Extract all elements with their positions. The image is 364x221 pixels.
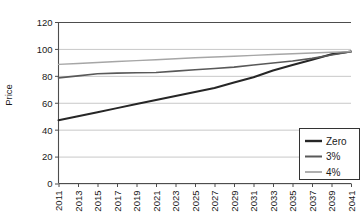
legend-label: 4%: [326, 167, 341, 178]
y-tick-label: 20: [42, 151, 53, 162]
chart-legend: Zero3%4%: [300, 129, 360, 180]
chart-canvas: 020406080100120 201120132015201720192021…: [0, 0, 364, 221]
x-tick-label: 2031: [248, 191, 259, 212]
x-tick-label: 2021: [151, 191, 162, 212]
x-tick-label: 2035: [287, 191, 298, 212]
x-tick-label: 2017: [112, 191, 123, 212]
x-tick-label: 2019: [131, 191, 142, 212]
y-tick-label: 120: [37, 17, 53, 28]
x-tick-label: 2033: [268, 191, 279, 212]
x-tick-label: 2029: [229, 191, 240, 212]
y-tick-label: 100: [37, 44, 53, 55]
y-axis-title: Price: [3, 84, 14, 106]
x-tick-label: 2015: [92, 191, 103, 212]
y-tick-label: 80: [42, 71, 53, 82]
legend-label: 3%: [326, 151, 341, 162]
x-tick-label: 2039: [326, 191, 337, 212]
y-tick-label: 0: [47, 178, 52, 189]
x-tick-label: 2041: [346, 191, 357, 212]
x-tick-label: 2025: [190, 191, 201, 212]
y-tick-label: 60: [42, 98, 53, 109]
x-tick-label: 2027: [209, 191, 220, 212]
y-tick-label: 40: [42, 125, 53, 136]
price-projection-chart: 020406080100120 201120132015201720192021…: [0, 0, 364, 221]
x-tick-label: 2037: [307, 191, 318, 212]
chart-background: [0, 0, 364, 221]
x-tick-label: 2011: [53, 191, 64, 211]
x-tick-label: 2023: [170, 191, 181, 212]
x-tick-label: 2013: [73, 191, 84, 212]
legend-label: Zero: [326, 136, 347, 147]
